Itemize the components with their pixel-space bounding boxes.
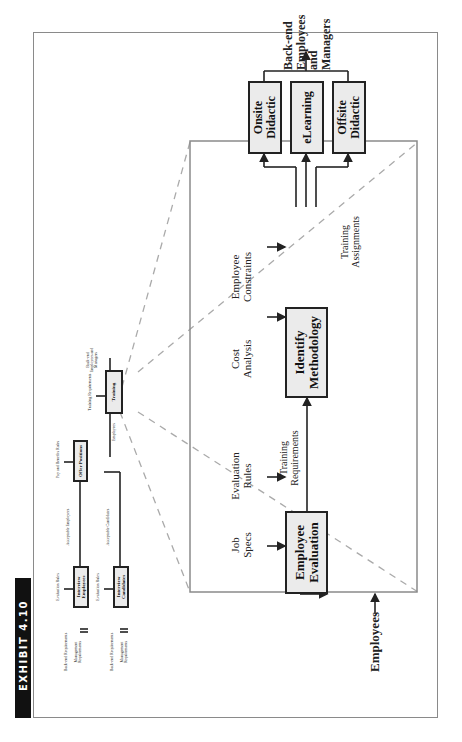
employee-constraints-label: EmployeeConstraints [230,242,253,312]
job-specs-label: JobSpecs [230,520,253,570]
im-line2: Methodology [307,316,321,389]
im-line1: Identify [293,330,307,374]
ic-control-label: Evaluation Rules [96,562,100,612]
interview-candidates-box: Interview Candidates [113,566,129,608]
evaluation-rules-label: EvaluationRules [230,446,253,506]
ee-line2: Evaluation [307,522,321,583]
ie-input-2: Management Requirements [74,632,82,672]
training-assignments-label: TrainingAssignments [340,197,361,287]
cost-analysis-label: CostAnalysis [230,334,253,384]
op-input-2: Acceptable Candidates [106,507,110,547]
tr-output-label: Back-end Employees and Managers [86,346,99,374]
op-input-1: Acceptable Employees [66,507,70,547]
training-box: Training [105,370,123,414]
op-output-label: Employees [112,412,116,452]
employees-input-label: Employees [368,612,382,672]
ee-line1: Employee [293,525,307,580]
ic-input-2: Management Requirements [120,632,128,672]
detail-output-label: Back-endEmployeesandManagers [282,0,332,70]
ic-input-1: Back-end Requirements [110,632,114,672]
elearning-box: eLearning [290,81,324,154]
interview-employees-box: Interview Employees [73,566,89,608]
offer-positions-box: Offer Positions [73,440,88,482]
ie-control-label: Evaluation Rules [56,562,60,612]
ie-input-1: Back-end Requirements [64,632,68,672]
employee-evaluation-box: Employee Evaluation [285,511,328,594]
op-control-label: Pay and Benefits Rules [56,432,60,487]
identify-methodology-box: Identify Methodology [285,307,328,398]
training-requirements-flow-label: TrainingRequirements [279,416,300,500]
diagram-stage: Interview Employees Interview Candidates… [0,0,462,742]
offsite-didactic-box: OffsiteDidactic [332,81,366,154]
onsite-didactic-box: OnsiteDidactic [248,81,282,154]
